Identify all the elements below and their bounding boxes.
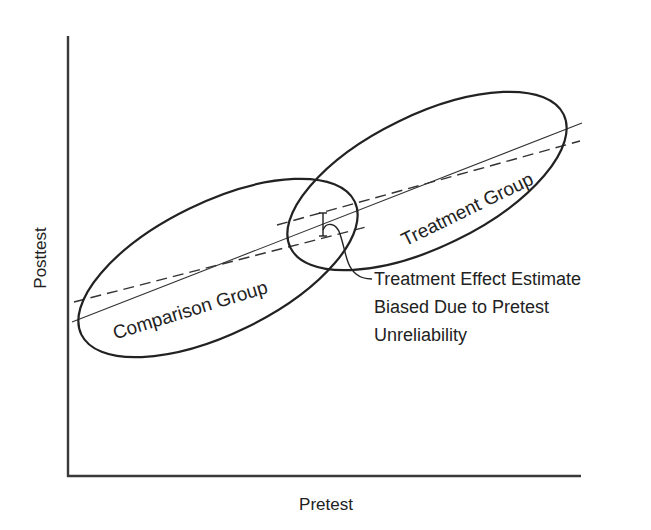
annotation-line-1: Treatment Effect Estimate [374,269,581,289]
x-axis-label: Pretest [299,495,353,514]
bias-bracket [319,213,327,236]
y-axis-label: Posttest [31,227,50,289]
diagram-canvas: Comparison Group Treatment Group Treatme… [0,0,651,530]
annotation: Treatment Effect Estimate Biased Due to … [374,269,581,345]
axes [67,36,581,477]
comparison-group-ellipse [52,142,383,394]
treatment-group-label: Treatment Group [398,168,537,250]
comparison-group-label: Comparison Group [110,276,270,343]
annotation-line-3: Unreliability [374,325,467,345]
annotation-line-2: Biased Due to Pretest [374,297,549,317]
true-regression-line [72,123,582,322]
